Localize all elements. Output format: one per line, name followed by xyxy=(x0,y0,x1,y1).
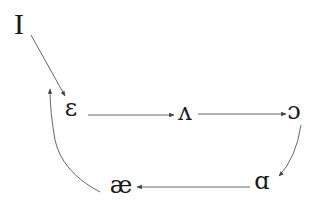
vowel-chain-diagram: I ɛ ʌ ɔ ɑ æ xyxy=(0,0,320,208)
arrows-layer xyxy=(0,0,320,208)
arrow-i-to-epsilon xyxy=(31,35,65,96)
node-i: I xyxy=(14,9,24,39)
arrow-open-o-to-script-a xyxy=(279,125,301,176)
node-wedge: ʌ xyxy=(178,100,192,124)
node-ash: æ xyxy=(110,173,133,197)
node-open-o: ɔ xyxy=(287,99,300,123)
node-epsilon: ɛ xyxy=(65,96,77,120)
node-script-a: ɑ xyxy=(254,169,269,193)
